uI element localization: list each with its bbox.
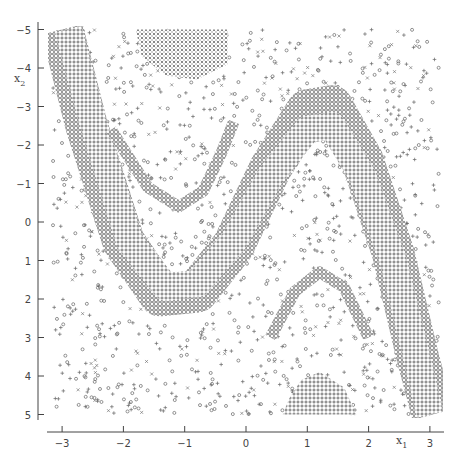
y-tick-label: 4 <box>25 371 31 382</box>
y-tick-label: −2 <box>16 140 31 151</box>
y-axis-label: x2 <box>14 72 25 88</box>
y-tick-label: −3 <box>16 102 31 113</box>
lower-patch <box>283 372 357 414</box>
y-tick-label: 5 <box>25 410 31 421</box>
y-tick-label: 3 <box>25 333 31 344</box>
x-tick-label: 2 <box>365 438 371 449</box>
x-tick-label: 3 <box>427 438 433 449</box>
x-tick-label: 1 <box>304 438 310 449</box>
upper-x-patch <box>136 30 228 80</box>
y-tick-label: 0 <box>25 217 31 228</box>
inner-arch-lower <box>271 272 369 337</box>
x-tick-label: −2 <box>116 438 131 449</box>
scatter-chart: 543210−1−2−3−4−5 −3−2−10123 x2 x1 <box>0 0 463 468</box>
y-tick-label: −1 <box>16 179 31 190</box>
y-tick-label: −5 <box>16 25 31 36</box>
plot-area <box>51 28 440 416</box>
x-tick-label: 0 <box>243 438 249 449</box>
y-tick-label: 1 <box>25 256 31 267</box>
x-axis-label: x1 <box>396 434 407 450</box>
y-tick-label: 2 <box>25 294 31 305</box>
inner-fill <box>68 30 430 415</box>
x-tick-label: −3 <box>55 438 70 449</box>
x-tick-label: −1 <box>177 438 192 449</box>
x-axis: −3−2−10123 <box>47 426 444 449</box>
